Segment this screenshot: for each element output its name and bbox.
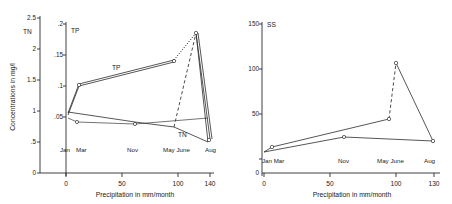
right-ss-marker-nov	[342, 135, 345, 138]
right-x-tick-1: 50	[326, 180, 334, 187]
left-tp-marker-mar	[77, 83, 80, 86]
left-month-nov: Nov	[127, 146, 139, 153]
right-y-tick-1: 100	[248, 65, 259, 72]
left-series-tp-fall-shadow	[198, 33, 212, 139]
left-baseline-marker-mar	[75, 120, 78, 123]
right-series-ss-lower	[264, 137, 433, 152]
left-tn-tick-1: 2	[32, 45, 36, 52]
left-tn-tick-4: .5	[31, 138, 37, 145]
left-x-axis-label: Precipitation in mm/month	[96, 191, 175, 199]
right-x-tick-0: 0	[262, 180, 266, 187]
left-series-label-tn: TN	[178, 131, 187, 138]
left-month-jan: Jan	[60, 146, 71, 153]
left-series-tn-rise-dashed	[174, 33, 196, 127]
left-month-mayjune: May June	[163, 146, 190, 153]
right-ss-marker-mar	[270, 145, 273, 148]
left-baseline-marker-nov	[133, 122, 136, 125]
right-month-mayjune: May June	[377, 157, 404, 164]
right-ss-marker-aug	[431, 139, 434, 142]
left-x-ticks	[66, 173, 210, 177]
left-x-tick-0: 0	[64, 180, 68, 187]
left-tn-tick-0: 2.5	[27, 14, 36, 21]
left-tn-tick-3: 1	[32, 107, 36, 114]
right-series-ss-upper	[264, 119, 389, 152]
left-tp-tick-2: .1	[58, 82, 64, 89]
left-tp-axis-name: TP	[71, 27, 80, 34]
right-month-aug: Aug	[424, 157, 436, 164]
left-tp-tick-0: .2	[58, 20, 64, 27]
right-ss-axis-name: SS	[267, 21, 276, 28]
left-tp-marker-aug	[207, 138, 210, 141]
left-panel: 2.5 2 1.5 1 .5 0 TN .2 .15 .1 .05 TP 0 5…	[9, 14, 217, 199]
left-tp-marker-june	[194, 31, 197, 34]
left-series-tn	[68, 112, 208, 142]
left-series-label-tp: TP	[112, 64, 121, 71]
right-x-tick-2: 100	[390, 180, 401, 187]
right-y-tick-2: 50	[252, 110, 260, 117]
left-series-tp-fall	[196, 33, 210, 139]
right-y-tick-0: 150	[248, 20, 259, 27]
right-x-axis-label: Precipitation in mm/month	[313, 191, 392, 199]
right-panel: 150 100 50 0 SS 0 50 100 130 Precipitati…	[248, 20, 440, 199]
left-series-baseline	[68, 118, 208, 124]
right-ss-marker-may	[387, 117, 390, 120]
right-series-ss-fall	[396, 63, 433, 141]
left-series-tp	[68, 60, 174, 113]
right-series-ss-rise-dashed	[389, 63, 396, 119]
left-x-tick-3: 140	[204, 180, 215, 187]
left-tp-marker-may	[172, 59, 175, 62]
left-x-tick-2: 100	[172, 180, 183, 187]
left-tp-tick-3: .05	[54, 113, 63, 120]
right-x-ticks	[264, 173, 434, 177]
figure-root: 2.5 2 1.5 1 .5 0 TN .2 .15 .1 .05 TP 0 5…	[0, 0, 452, 204]
right-x-tick-3: 130	[428, 180, 439, 187]
right-y-tick-3: 0	[255, 169, 259, 176]
left-tp-tick-1: .15	[54, 51, 63, 58]
left-tn-axis-name: TN	[23, 28, 32, 35]
left-tn-tick-5: 0	[32, 169, 36, 176]
figure-svg: 2.5 2 1.5 1 .5 0 TN .2 .15 .1 .05 TP 0 5…	[0, 0, 452, 204]
right-month-nov: Nov	[338, 157, 350, 164]
left-tn-tick-2: 1.5	[27, 76, 36, 83]
left-y-axis-label: Concentrations in mg/l	[9, 63, 17, 131]
right-ss-marker-june	[394, 61, 397, 64]
left-month-mar: Mar	[76, 146, 87, 153]
left-series-tp-rise-dotted	[174, 33, 196, 60]
left-month-aug: Aug	[205, 146, 217, 153]
left-series-tp-shadow	[68, 62, 174, 115]
right-month-janmar: Jan Mar	[262, 157, 284, 164]
left-x-tick-1: 50	[118, 180, 126, 187]
